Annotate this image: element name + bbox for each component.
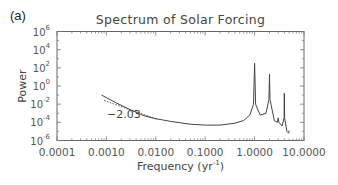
spectrum-line [102, 63, 290, 133]
plot-area [0, 0, 338, 185]
plot-frame [57, 32, 304, 141]
axis-tick-marks [57, 32, 304, 141]
